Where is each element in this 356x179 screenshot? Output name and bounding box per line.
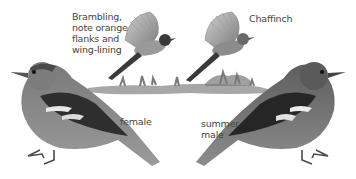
brambling-label-line-1: Brambling, [72, 11, 128, 22]
bird-plate-illustration [0, 0, 356, 179]
female-chaffinch-bird [10, 62, 160, 166]
brambling-label-line-3: flanks and [72, 33, 128, 44]
brambling-label: Brambling, note orange flanks and wing-l… [72, 11, 128, 55]
summer-male-label: summer male [201, 118, 239, 140]
summer-male-label-line-1: summer [201, 118, 239, 129]
chaffinch-label: Chaffinch [249, 13, 292, 24]
brambling-label-line-4: wing-lining [72, 44, 128, 55]
brambling-label-line-2: note orange [72, 22, 128, 33]
chaffinch-flying-bird [186, 12, 255, 82]
summer-male-label-line-2: male [201, 129, 239, 140]
female-label: female [120, 116, 152, 127]
